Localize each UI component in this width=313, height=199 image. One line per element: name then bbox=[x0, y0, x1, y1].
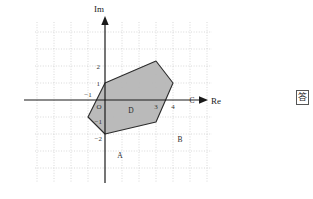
y-axis-label: Im bbox=[94, 4, 104, 14]
y-tick-label-1: 1 bbox=[97, 80, 101, 88]
origin-label: O bbox=[96, 103, 101, 111]
complex-plane-figure: Re Im O −1 3 4 2 1 −1 −2 D A B C bbox=[0, 0, 282, 199]
y-tick-label-neg2: −2 bbox=[95, 135, 103, 143]
point-label-A: A bbox=[117, 151, 123, 160]
point-label-C: C bbox=[189, 96, 194, 105]
point-label-B: B bbox=[177, 135, 182, 144]
x-tick-label-4: 4 bbox=[171, 103, 175, 111]
complex-plane-svg: Re Im O −1 3 4 2 1 −1 −2 D A B C bbox=[0, 0, 282, 199]
figure-root: Re Im O −1 3 4 2 1 −1 −2 D A B C 答 bbox=[0, 0, 313, 199]
x-tick-label-3: 3 bbox=[154, 103, 158, 111]
y-tick-label-2: 2 bbox=[97, 63, 101, 71]
x-axis-label: Re bbox=[211, 96, 221, 106]
answer-marker-box: 答 bbox=[296, 90, 309, 105]
y-tick-label-neg1: −1 bbox=[95, 118, 103, 126]
x-tick-label-neg1: −1 bbox=[84, 91, 92, 99]
region-label-D: D bbox=[128, 106, 134, 115]
answer-marker-label: 答 bbox=[298, 93, 307, 102]
